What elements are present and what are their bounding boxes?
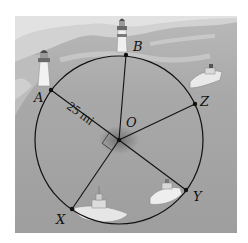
label-B: B: [132, 39, 143, 54]
label-O: O: [126, 115, 137, 130]
point-Z: [193, 102, 197, 106]
point-X: [70, 207, 74, 211]
label-X: X: [55, 212, 66, 227]
label-Z: Z: [199, 94, 210, 109]
point-Y: [184, 188, 188, 192]
label-A: A: [33, 90, 43, 105]
point-O: [117, 138, 121, 142]
point-A: [49, 88, 53, 92]
point-B: [124, 53, 128, 57]
label-Y: Y: [193, 189, 203, 204]
circle-diagram: A B Z Y X O 25 mi: [0, 0, 248, 243]
